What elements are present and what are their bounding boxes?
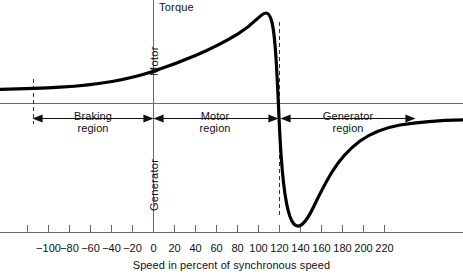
motor-region-label: Motor region: [181, 110, 249, 135]
chart-plot-area: [0, 0, 463, 278]
generator-region-line2: region: [308, 122, 388, 134]
motor-region-line1: Motor: [201, 110, 230, 122]
x-axis-title: Speed in percent of synchronous speed: [0, 259, 463, 271]
motor-direction-label: Motor: [148, 46, 160, 76]
braking-region-line2: region: [59, 122, 127, 134]
generator-direction-label: Generator: [148, 159, 160, 211]
generator-region-line1: Generator: [323, 110, 373, 122]
x-tick-marks: [28, 225, 385, 232]
torque-speed-chart: Torque Motor Generator Braking region Mo…: [0, 0, 463, 278]
motor-region-line2: region: [181, 122, 249, 134]
braking-region-label: Braking region: [59, 110, 127, 135]
generator-region-label: Generator region: [308, 110, 388, 135]
braking-region-line1: Braking: [74, 110, 112, 122]
torque-axis-title: Torque: [159, 1, 194, 13]
x-tick-label: 220: [365, 242, 405, 254]
